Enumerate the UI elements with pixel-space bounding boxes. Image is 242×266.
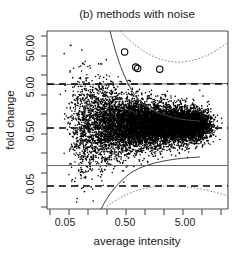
data-point [85,85,87,87]
data-point [90,127,92,129]
data-point [73,132,75,134]
data-point [95,107,97,109]
data-point [188,143,190,145]
data-point [80,174,82,176]
data-point [117,99,119,101]
data-point [121,117,123,119]
data-point [130,151,132,153]
data-point [70,123,72,125]
lower-band-dotted-curve [104,186,228,209]
data-point [202,138,204,140]
data-point [77,113,79,115]
data-point [112,116,114,118]
data-point [87,93,89,95]
data-point [95,135,97,137]
data-point [185,104,187,106]
data-point [88,147,90,149]
data-point [96,163,98,165]
data-point [182,133,184,135]
data-point [95,116,97,118]
data-point [128,143,130,145]
data-point [149,116,151,118]
data-point [81,86,83,88]
data-point [200,117,202,119]
data-point [148,155,150,157]
data-point [101,174,103,176]
data-point [141,141,143,143]
data-point [113,158,115,160]
data-point [188,127,190,129]
data-point [117,118,119,120]
data-point [96,142,98,144]
data-point [90,152,92,154]
data-point [80,143,82,145]
data-point [89,114,91,116]
data-point [147,114,149,116]
data-point [152,139,154,141]
data-point [133,142,135,144]
data-point [104,136,106,138]
data-point [67,129,69,131]
data-point [85,176,87,178]
data-point [106,129,108,131]
data-point [142,138,144,140]
data-point [87,114,89,116]
data-point [84,156,86,158]
data-point [101,135,103,137]
data-point [91,80,93,82]
data-point [133,145,135,147]
data-point [81,134,83,136]
data-point [108,134,110,136]
data-point [89,132,91,134]
data-point [154,125,156,127]
data-point [133,131,135,133]
data-point [144,107,146,109]
data-point [71,145,73,147]
data-point [84,139,86,141]
data-point [143,113,145,115]
data-point [119,98,121,100]
data-point [96,109,98,111]
data-point [79,94,81,96]
data-point [106,144,108,146]
data-point [139,122,141,124]
data-point [120,137,122,139]
data-point [72,86,74,88]
data-point [141,124,143,126]
data-point [78,66,80,68]
data-point [161,132,163,134]
data-point [171,154,173,156]
data-point [97,74,99,76]
data-point [99,77,101,79]
data-point [137,117,139,119]
data-point [130,123,132,125]
data-point [181,140,183,142]
data-point [101,112,103,114]
data-point [148,139,150,141]
data-point [175,155,177,157]
data-point [190,138,192,140]
data-point [201,113,203,115]
data-point [169,112,171,114]
data-point [64,85,66,87]
data-point [200,119,202,121]
data-point [112,133,114,135]
data-point [112,131,114,133]
data-point [92,136,94,138]
data-point [147,134,149,136]
data-point [109,115,111,117]
data-point [162,144,164,146]
data-point [118,151,120,153]
data-point [120,129,122,131]
data-point [193,106,195,108]
data-point [80,132,82,134]
data-point [119,161,121,163]
data-point [83,177,85,179]
data-point [160,110,162,112]
data-point [161,94,163,96]
data-point [114,152,116,154]
data-point [129,102,131,104]
data-point [170,131,172,133]
data-point [168,104,170,106]
data-point [142,118,144,120]
